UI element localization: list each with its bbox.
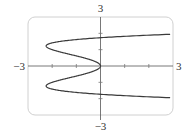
x-min-label: −3 [13, 60, 25, 72]
y-max-label: 3 [98, 2, 104, 14]
x-max-label: 3 [176, 60, 182, 72]
chart: 3 −3 −3 3 [0, 0, 194, 134]
y-min-label: −3 [95, 120, 107, 132]
